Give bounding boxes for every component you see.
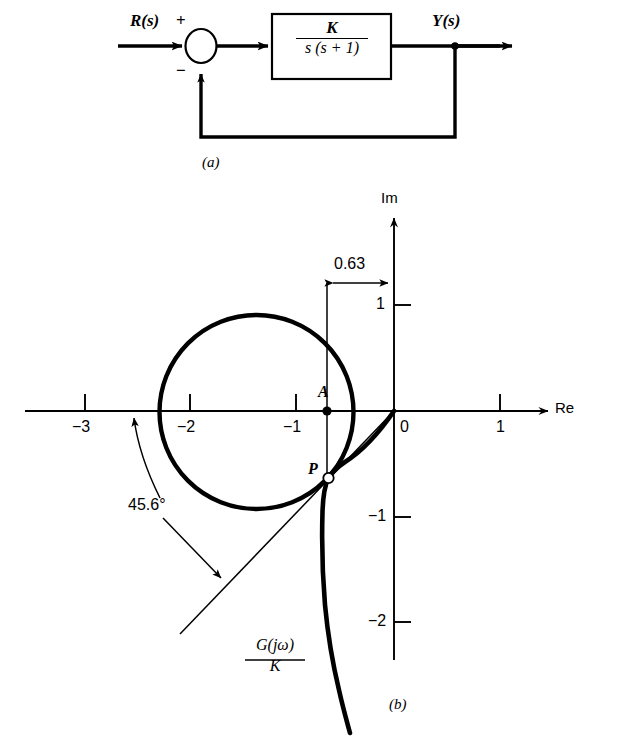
imag-tick-label-one: 1 [376,296,385,312]
transfer-function-denominator: s (s + 1) [296,40,368,56]
point-a-label: A [318,384,329,400]
panel-a-caption: (a) [202,155,220,170]
imag-tick-label-minus1: −1 [368,508,386,524]
real-tick-label-zero: 0 [400,419,409,435]
input-signal-label: R(s) [130,12,159,29]
point-a-marker [322,406,331,415]
real-tick-label-minus2: −2 [177,419,195,435]
real-tick-label-one: 1 [496,419,505,435]
curve-label-numerator: G(jω) [245,637,305,653]
curve-label-denominator: K [245,658,305,674]
summing-minus-sign: − [176,62,186,79]
summing-plus-sign: + [176,12,186,29]
angle-leader-lower [163,518,221,578]
angle-label-456: 45.6° [128,497,166,513]
imag-tick-label-minus2: −2 [368,613,386,629]
real-tick-label-minus3: −3 [72,419,90,435]
imaginary-axis-label: Im [381,190,398,205]
transfer-function-numerator: K [296,19,368,36]
summing-junction [186,29,217,63]
point-p-label: P [308,461,318,477]
panel-b-caption: (b) [389,697,407,712]
figure-root [0,0,620,737]
nyquist-locus [322,411,394,733]
dimension-label-063: 0.63 [334,256,365,272]
curve-label: G(jω) K [245,637,305,674]
output-signal-label: Y(s) [432,12,460,29]
plant-transfer-function: K s (s + 1) [296,19,368,56]
real-tick-label-minus1: −1 [283,419,301,435]
tangent-line [180,411,394,634]
feedback-path [201,46,455,137]
imaginary-axis-ticks [394,305,411,622]
real-axis-label: Re [555,400,574,415]
point-p-marker [323,473,333,483]
angle-leader-upper [134,418,160,498]
real-axis-ticks [85,394,500,411]
